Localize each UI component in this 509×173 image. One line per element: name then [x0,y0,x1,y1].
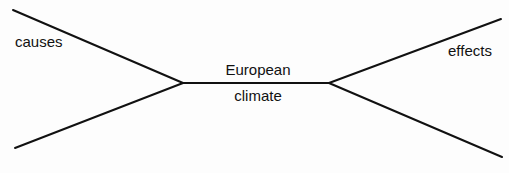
center-node-line1: European [225,62,290,77]
center-node-line2: climate [234,88,282,103]
effects-label: effects [448,43,492,58]
effect-branch [329,19,502,157]
cause-branch [13,10,183,148]
bowtie-diagram: causes effects European climate [0,0,509,173]
causes-label: causes [15,34,63,49]
